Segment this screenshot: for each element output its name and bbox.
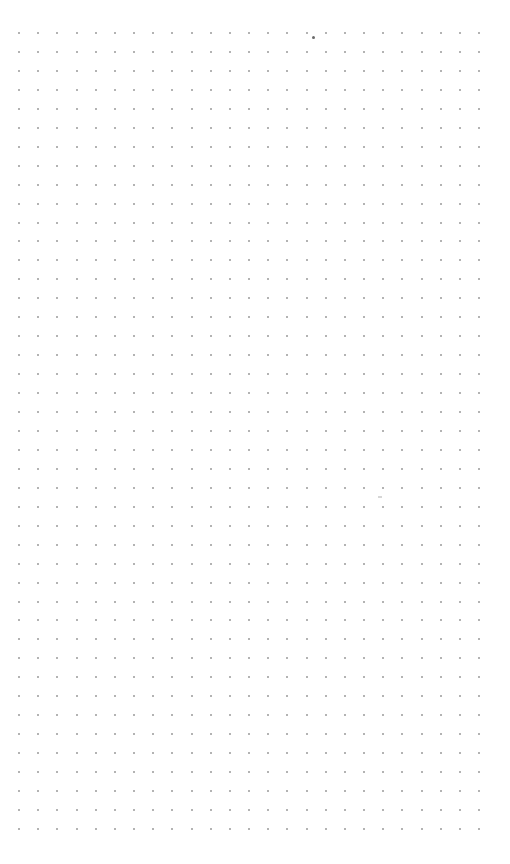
- grid-dot: [114, 316, 116, 318]
- grid-dot: [171, 771, 173, 773]
- grid-dot: [37, 487, 39, 489]
- grid-dot: [459, 335, 461, 337]
- grid-dot: [114, 544, 116, 546]
- grid-dot: [478, 335, 480, 337]
- grid-dot: [18, 771, 20, 773]
- grid-dot: [248, 601, 250, 603]
- grid-dot: [267, 240, 269, 242]
- grid-dot: [401, 506, 403, 508]
- grid-dot: [114, 259, 116, 261]
- grid-dot: [421, 733, 423, 735]
- grid-dot: [133, 563, 135, 565]
- grid-dot: [382, 563, 384, 565]
- grid-dot: [95, 487, 97, 489]
- grid-dot: [210, 771, 212, 773]
- grid-dot: [267, 449, 269, 451]
- grid-dot: [421, 259, 423, 261]
- grid-dot: [229, 392, 231, 394]
- grid-dot: [401, 203, 403, 205]
- grid-dot: [76, 506, 78, 508]
- grid-dot: [344, 771, 346, 773]
- grid-dot: [363, 771, 365, 773]
- grid-dot: [37, 771, 39, 773]
- grid-dot: [191, 89, 193, 91]
- grid-dot: [440, 809, 442, 811]
- grid-dot: [478, 203, 480, 205]
- grid-dot: [76, 259, 78, 261]
- grid-dot: [459, 316, 461, 318]
- grid-dot: [286, 619, 288, 621]
- grid-dot: [382, 506, 384, 508]
- grid-dot: [267, 373, 269, 375]
- grid-dot: [286, 259, 288, 261]
- grid-dot: [171, 487, 173, 489]
- grid-dot: [344, 657, 346, 659]
- grid-dot: [18, 278, 20, 280]
- grid-dot: [152, 297, 154, 299]
- grid-dot: [344, 165, 346, 167]
- grid-dot: [114, 297, 116, 299]
- grid-dot: [18, 354, 20, 356]
- grid-dot: [229, 70, 231, 72]
- grid-dot: [344, 506, 346, 508]
- grid-dot: [267, 165, 269, 167]
- grid-dot: [363, 468, 365, 470]
- grid-dot: [95, 506, 97, 508]
- grid-dot: [286, 240, 288, 242]
- grid-dot: [306, 525, 308, 527]
- grid-dot: [171, 563, 173, 565]
- grid-dot: [363, 89, 365, 91]
- grid-dot: [382, 790, 384, 792]
- grid-dot: [325, 373, 327, 375]
- grid-dot: [459, 108, 461, 110]
- grid-dot: [306, 354, 308, 356]
- grid-dot: [133, 525, 135, 527]
- grid-dot: [306, 240, 308, 242]
- grid-dot: [286, 184, 288, 186]
- grid-dot: [229, 506, 231, 508]
- grid-dot: [56, 51, 58, 53]
- grid-dot: [306, 733, 308, 735]
- grid-dot: [401, 790, 403, 792]
- grid-dot: [95, 70, 97, 72]
- grid-dot: [325, 828, 327, 830]
- grid-dot: [37, 373, 39, 375]
- grid-dot: [478, 601, 480, 603]
- grid-dot: [440, 222, 442, 224]
- grid-dot: [191, 657, 193, 659]
- grid-dot: [18, 184, 20, 186]
- grid-dot: [306, 619, 308, 621]
- grid-dot: [152, 771, 154, 773]
- grid-dot: [344, 790, 346, 792]
- grid-dot: [267, 828, 269, 830]
- grid-dot: [440, 430, 442, 432]
- grid-dot: [210, 108, 212, 110]
- dot-grid-canvas[interactable]: [0, 0, 510, 864]
- grid-dot: [210, 240, 212, 242]
- grid-dot: [191, 544, 193, 546]
- grid-dot: [191, 752, 193, 754]
- grid-dot: [440, 165, 442, 167]
- grid-dot: [152, 354, 154, 356]
- grid-dot: [401, 563, 403, 565]
- grid-dot: [286, 714, 288, 716]
- grid-dot: [114, 411, 116, 413]
- grid-dot: [18, 638, 20, 640]
- grid-dot: [56, 373, 58, 375]
- grid-dot: [248, 51, 250, 53]
- grid-dot: [440, 468, 442, 470]
- grid-dot: [286, 203, 288, 205]
- grid-dot: [286, 278, 288, 280]
- grid-dot: [459, 676, 461, 678]
- grid-dot: [306, 449, 308, 451]
- grid-dot: [229, 449, 231, 451]
- grid-dot: [421, 638, 423, 640]
- grid-dot: [37, 468, 39, 470]
- grid-dot: [440, 506, 442, 508]
- grid-dot: [286, 752, 288, 754]
- grid-dot: [18, 695, 20, 697]
- grid-dot: [401, 695, 403, 697]
- grid-dot: [210, 51, 212, 53]
- grid-dot: [95, 619, 97, 621]
- grid-dot: [95, 809, 97, 811]
